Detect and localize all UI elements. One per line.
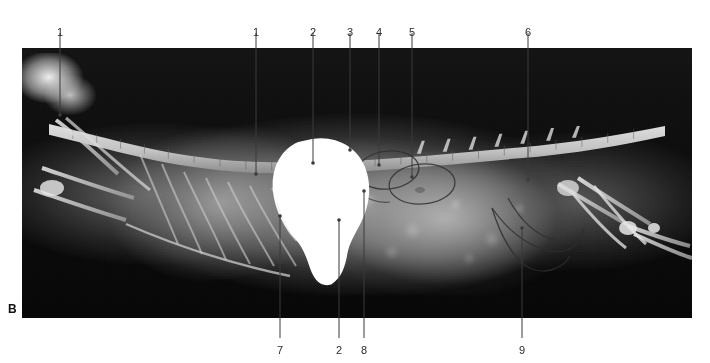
annotation-number-L2b: 2 — [336, 345, 342, 356]
annotation-number-L5: 5 — [409, 27, 415, 38]
radiograph-image — [22, 48, 692, 318]
annotation-number-L1b: 1 — [253, 27, 259, 38]
annotation-number-L4: 4 — [376, 27, 382, 38]
annotation-number-L6: 6 — [525, 27, 531, 38]
annotation-number-L2a: 2 — [310, 27, 316, 38]
contrast-filled-stomach — [267, 137, 394, 288]
annotation-number-L1a: 1 — [57, 27, 63, 38]
annotation-number-L9: 9 — [519, 345, 525, 356]
panel-letter: B — [8, 303, 17, 315]
annotation-number-L8: 8 — [361, 345, 367, 356]
annotation-number-L7: 7 — [277, 345, 283, 356]
annotation-number-L3: 3 — [347, 27, 353, 38]
figure-root: 11234567289 B — [0, 0, 710, 363]
